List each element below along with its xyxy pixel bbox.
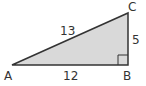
vertex-label-b: B [123,69,131,83]
vertex-label-c: C [128,0,136,14]
side-label-bc: 5 [132,33,140,47]
side-label-ac: 13 [60,24,75,38]
side-label-ab: 12 [63,69,78,83]
triangle-abc [12,13,128,65]
vertex-label-a: A [4,69,13,83]
triangle-diagram: A B C 13 12 5 [0,0,146,86]
